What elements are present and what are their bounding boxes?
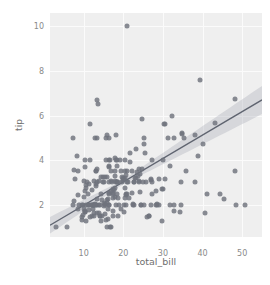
scatter-point xyxy=(195,153,200,158)
scatter-point xyxy=(97,202,102,207)
scatter-point xyxy=(76,192,81,197)
scatter-point xyxy=(111,195,116,200)
scatter-point xyxy=(92,210,97,215)
scatter-point xyxy=(139,202,144,207)
scatter-point xyxy=(160,219,165,224)
scatter-point xyxy=(137,179,142,184)
scatter-point xyxy=(111,208,116,213)
scatter-point xyxy=(129,190,134,195)
scatter-point xyxy=(116,180,121,185)
scatter-point xyxy=(84,186,89,191)
scatter-point xyxy=(71,198,76,203)
scatter-point xyxy=(94,197,99,202)
scatter-point xyxy=(125,180,130,185)
scatter-point xyxy=(172,202,177,207)
scatter-point xyxy=(124,24,129,29)
scatter-point xyxy=(198,78,203,83)
scatter-point xyxy=(162,176,167,181)
scatter-point xyxy=(232,169,237,174)
scatter-point xyxy=(138,190,143,195)
scatter-point xyxy=(127,159,132,164)
scatter-point xyxy=(205,191,210,196)
scatter-point xyxy=(81,212,86,217)
scatter-point xyxy=(112,186,117,191)
y-tick-label: 8 xyxy=(20,67,44,76)
scatter-point xyxy=(54,225,59,230)
scatter-point xyxy=(134,169,139,174)
scatter-point xyxy=(88,158,93,163)
scatter-point xyxy=(243,202,248,207)
scatter-point xyxy=(88,122,93,127)
scatter-point xyxy=(157,202,162,207)
scatter-point xyxy=(72,168,77,173)
y-axis-title: tip xyxy=(14,119,24,131)
scatter-point xyxy=(93,202,98,207)
scatter-point xyxy=(103,135,108,140)
scatter-point xyxy=(221,197,226,202)
x-tick-label: 40 xyxy=(191,249,215,258)
scatter-point xyxy=(184,169,189,174)
scatter-point xyxy=(180,132,185,137)
scatter-point xyxy=(120,177,125,182)
scatter-point xyxy=(95,102,100,107)
scatter-point xyxy=(115,214,120,219)
scatter-point xyxy=(202,211,207,216)
scatter-point xyxy=(122,209,127,214)
y-tick-label: 10 xyxy=(20,22,44,31)
scatter-point xyxy=(64,225,69,230)
scatter-point xyxy=(106,163,111,168)
scatter-point xyxy=(94,184,99,189)
scatter-point xyxy=(99,191,104,196)
scatter-point xyxy=(142,142,147,147)
scatter-point xyxy=(116,195,121,200)
scatter-point xyxy=(192,180,197,185)
scatter-point xyxy=(94,135,99,140)
y-tick-label: 4 xyxy=(20,156,44,165)
scatter-point xyxy=(105,201,110,206)
x-axis-title: total_bill xyxy=(136,256,176,267)
scatter-point xyxy=(179,202,184,207)
scatter-point xyxy=(98,174,103,179)
scatter-point xyxy=(131,202,136,207)
scatter-point xyxy=(128,151,133,156)
scatter-point xyxy=(114,132,119,137)
scatter-point xyxy=(114,163,119,168)
scatter-point xyxy=(124,202,129,207)
scatter-point xyxy=(123,169,128,174)
scatter-point xyxy=(84,180,89,185)
scatter-point xyxy=(212,121,217,126)
scatter-point xyxy=(112,169,117,174)
scatter-point xyxy=(172,208,177,213)
scatter-point xyxy=(149,191,154,196)
scatter-point xyxy=(107,158,112,163)
scatter-point xyxy=(133,147,138,152)
scatter-point xyxy=(75,153,80,158)
scatter-point xyxy=(95,167,100,172)
plot-panel xyxy=(50,13,262,237)
scatter-point xyxy=(122,186,127,191)
scatter-point xyxy=(104,217,109,222)
scatter-point xyxy=(116,202,121,207)
scatter-point xyxy=(144,215,149,220)
scatter-point xyxy=(90,188,95,193)
scatter-point xyxy=(72,176,77,181)
scatter-point xyxy=(178,209,183,214)
scatter-point xyxy=(123,195,128,200)
scatter-point xyxy=(161,122,166,127)
y-tick-label: 2 xyxy=(20,200,44,209)
scatter-point xyxy=(201,141,206,146)
scatter-point xyxy=(149,158,154,163)
scatter-point xyxy=(142,135,147,140)
scatter-point xyxy=(114,158,119,163)
scatter-point xyxy=(107,225,112,230)
scatter-point xyxy=(143,150,148,155)
scatter-point xyxy=(75,206,80,211)
figure: 2468101020304050 tip total_bill xyxy=(0,0,270,285)
scatter-point xyxy=(168,163,173,168)
scatter-point xyxy=(80,202,85,207)
scatter-point xyxy=(70,135,75,140)
scatter-point xyxy=(170,113,175,118)
scatter-point xyxy=(233,97,238,102)
scatter-point xyxy=(160,186,165,191)
scatter-point xyxy=(156,177,161,182)
